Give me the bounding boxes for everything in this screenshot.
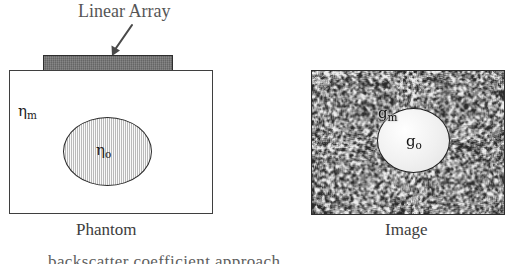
eta-m-symbol: η — [18, 102, 27, 120]
g-o-symbol: g — [406, 132, 416, 150]
g-m-symbol: g — [378, 104, 388, 122]
pointer-arrow-icon — [100, 18, 146, 60]
g-m-label: gm — [378, 106, 398, 121]
eta-o-subscript: o — [105, 148, 111, 160]
phantom-panel: Linear Array ηm ηo Phantom — [0, 0, 259, 264]
figure-root: Linear Array ηm ηo Phantom gm go Image b… — [0, 0, 518, 264]
g-o-label: go — [406, 134, 422, 149]
speckle-image-rectangle: gm go — [311, 70, 505, 215]
eta-o-label: ηo — [96, 143, 111, 158]
eta-m-subscript: m — [27, 109, 37, 121]
eta-o-symbol: η — [96, 141, 105, 159]
image-panel: gm go Image — [259, 0, 518, 264]
image-caption: Image — [385, 221, 427, 238]
g-o-subscript: o — [416, 139, 422, 151]
phantom-caption: Phantom — [76, 221, 136, 238]
clipped-body-text: backscatter coefficient approach — [48, 252, 478, 264]
linear-array-transducer — [43, 55, 173, 71]
g-m-subscript: m — [388, 111, 398, 123]
eta-m-label: ηm — [18, 104, 37, 119]
